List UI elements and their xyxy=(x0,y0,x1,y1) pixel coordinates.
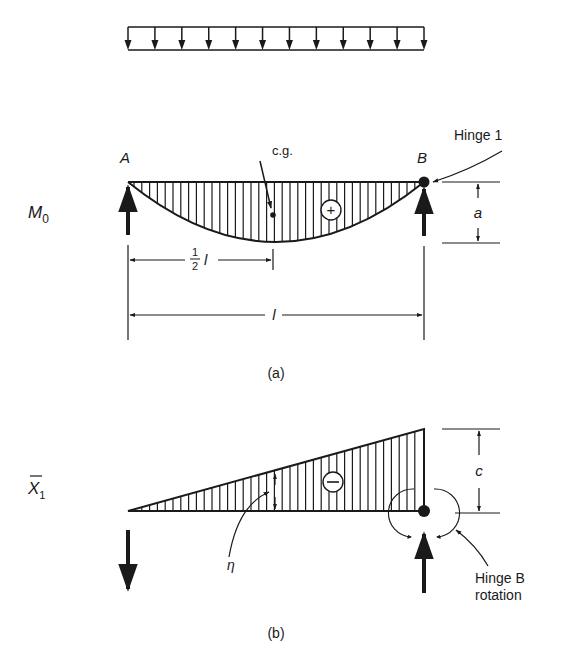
cg-label: c.g. xyxy=(272,143,293,158)
panel-b-caption: (b) xyxy=(267,625,284,641)
hinge-1-label: Hinge 1 xyxy=(454,127,502,143)
dimension-span-label: l xyxy=(272,306,276,323)
dimension-c-label: c xyxy=(475,462,483,479)
svg-text:X1: X1 xyxy=(27,479,45,501)
cg-leader xyxy=(260,161,271,208)
panel-b: X1 η c Hinge B rotation xyxy=(27,425,525,641)
distributed-load xyxy=(125,27,428,50)
svg-text:2: 2 xyxy=(192,260,198,272)
unit-moment-triangle xyxy=(128,429,424,511)
support-a-label: A xyxy=(119,149,130,166)
dimension-half-span-label: 1 2 l xyxy=(190,246,208,272)
positive-sign-icon: + xyxy=(321,200,341,220)
cg-point xyxy=(270,212,276,218)
panel-a: M0 A B c.g. + Hinge 1 a xyxy=(28,127,502,381)
svg-text:1: 1 xyxy=(192,246,198,258)
dimension-a-label: a xyxy=(474,204,482,221)
hinge-b-leader xyxy=(456,530,488,566)
negative-sign-icon xyxy=(323,472,343,492)
panel-a-caption: (a) xyxy=(267,365,284,381)
support-b-label: B xyxy=(417,149,427,166)
load-arrow-icons xyxy=(125,27,428,50)
hinge-b-label-line2: rotation xyxy=(475,587,522,603)
eta-label: η xyxy=(227,557,235,573)
svg-text:l: l xyxy=(204,251,208,268)
rotation-arc-left-icon xyxy=(388,489,414,537)
panel-a-diagram-label: M0 xyxy=(28,203,49,226)
hinge-b-label-line1: Hinge B xyxy=(475,570,525,586)
hinge-1-icon xyxy=(419,177,430,188)
beam-diagram: M0 A B c.g. + Hinge 1 a xyxy=(0,0,576,669)
panel-b-diagram-label: X1 xyxy=(27,476,45,501)
hinge-b-icon xyxy=(418,505,430,517)
hinge-1-leader xyxy=(433,151,502,182)
svg-text:+: + xyxy=(327,201,336,218)
